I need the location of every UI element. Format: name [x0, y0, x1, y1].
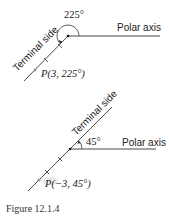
point-label: P(3, 225°) — [40, 68, 85, 80]
polar-axis-label: Polar axis — [122, 137, 166, 148]
figure-top: 225° Polar axis Terminal side P(3, 225°) — [11, 9, 161, 81]
origin-point — [69, 148, 72, 151]
point-p-top — [33, 68, 36, 71]
origin-point — [67, 35, 70, 38]
polar-axis-label: Polar axis — [117, 22, 161, 33]
angle-label: 225° — [64, 9, 84, 20]
terminal-side-label: Terminal side — [70, 88, 120, 138]
angle-label: 45° — [86, 136, 101, 147]
point-label: P(−3, 45°) — [44, 178, 91, 190]
point-p-bottom — [37, 178, 40, 181]
figure-caption: Figure 12.1.4 — [6, 203, 60, 214]
polar-diagram: 225° Polar axis Terminal side P(3, 225°)… — [0, 0, 169, 219]
terminal-side-label: Terminal side — [11, 24, 61, 74]
figure-bottom: 45° Polar axis Terminal side P(−3, 45°) — [28, 88, 166, 191]
